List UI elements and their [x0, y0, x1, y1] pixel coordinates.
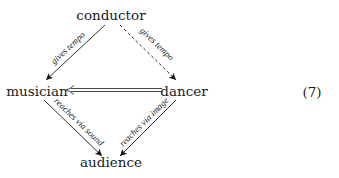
double-arrow-dancer-musician [66, 86, 162, 95]
node-conductor: conductor [76, 7, 146, 23]
label-dancer-audience: reaches via image [117, 95, 170, 148]
equation-number: (7) [302, 84, 321, 100]
label-conductor-dancer: gives tempo [138, 25, 176, 62]
arrow-dancer-audience [120, 100, 176, 156]
commutative-diagram: conductor musician dancer audience (7) g… [0, 0, 339, 178]
node-dancer: dancer [160, 83, 208, 99]
label-musician-audience: reaches via sound [52, 96, 106, 148]
label-conductor-musician: gives tempo [49, 29, 87, 66]
node-audience: audience [80, 154, 142, 170]
